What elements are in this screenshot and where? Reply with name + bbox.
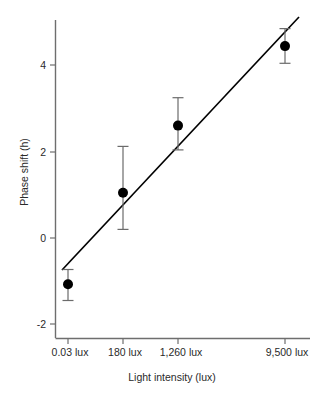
y-tick-label-2: 0	[40, 232, 46, 244]
y-tick-label-1: 2	[40, 146, 46, 158]
y-tick-label-3: -2	[37, 318, 46, 330]
y-axis-title: Phase shift (h)	[18, 138, 30, 206]
scatter-plot-svg: 4 2 0 -2 0.03 lux 180 lux 1,260 lux 9,50…	[0, 0, 330, 402]
x-tick-label-1: 180 lux	[108, 346, 143, 358]
y-tick-label-0: 4	[40, 59, 46, 71]
x-tick-label-0: 0.03 lux	[52, 346, 90, 358]
data-point-marker-1	[118, 188, 128, 198]
x-tick-label-3: 9,500 lux	[266, 346, 309, 358]
data-point-group-1	[118, 146, 129, 229]
data-point-marker-3	[280, 41, 290, 51]
x-tick-label-2: 1,260 lux	[160, 346, 203, 358]
data-point-group-3	[280, 29, 291, 64]
data-point-marker-0	[63, 279, 73, 289]
x-axis-title: Light intensity (lux)	[128, 371, 216, 383]
chart-figure: 4 2 0 -2 0.03 lux 180 lux 1,260 lux 9,50…	[0, 0, 330, 402]
regression-line	[62, 17, 299, 270]
data-point-marker-2	[173, 121, 183, 131]
data-point-group-0	[63, 270, 74, 301]
